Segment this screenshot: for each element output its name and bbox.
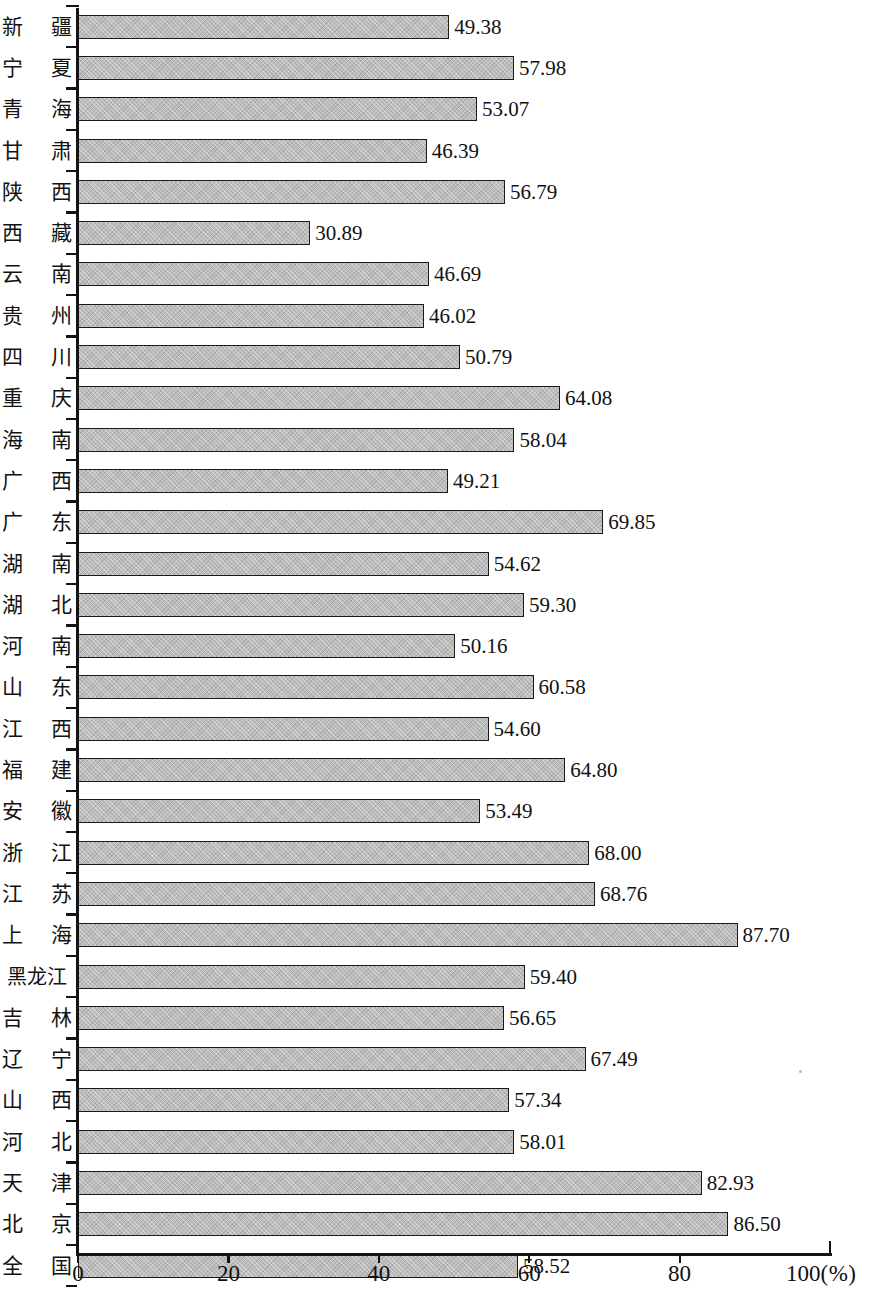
x-axis-tick-label: 80 <box>668 1262 691 1285</box>
bar <box>78 717 489 741</box>
y-axis-tick <box>66 913 77 915</box>
bar-value-label: 59.40 <box>530 966 577 987</box>
bar-row: 云 南46.69 <box>0 254 889 295</box>
y-axis-tick <box>66 955 77 957</box>
category-label: 陕 西 <box>2 181 72 202</box>
bar-row: 西 藏30.89 <box>0 213 889 254</box>
y-axis-tick <box>66 748 77 750</box>
y-axis-tick <box>66 335 77 337</box>
bar-container: 59.30 <box>78 593 524 617</box>
bar <box>78 386 560 410</box>
bar-row: 河 北58.01 <box>0 1121 889 1162</box>
bar-row: 广 西49.21 <box>0 460 889 501</box>
bar-value-label: 50.79 <box>465 347 512 368</box>
bar-value-label: 56.79 <box>510 181 557 202</box>
bar-row: 山 东60.58 <box>0 667 889 708</box>
bar-container: 58.52 <box>78 1254 518 1278</box>
category-label: 甘 肃 <box>2 140 72 161</box>
bar-container: 30.89 <box>78 221 310 245</box>
bar-container: 56.79 <box>78 180 505 204</box>
bar-row: 宁 夏57.98 <box>0 47 889 88</box>
bar-value-label: 46.69 <box>434 264 481 285</box>
y-axis-tick <box>66 996 77 998</box>
y-axis-tick <box>66 170 77 172</box>
category-label: 海 南 <box>2 429 72 450</box>
y-axis-tick <box>66 624 77 626</box>
bar-value-label: 46.02 <box>429 305 476 326</box>
category-label: 青 海 <box>2 99 72 120</box>
bar <box>78 139 427 163</box>
y-axis-tick <box>66 253 77 255</box>
bar-row: 北 京86.50 <box>0 1204 889 1245</box>
category-label: 山 东 <box>2 677 72 698</box>
scan-artifact-speck <box>799 1070 802 1073</box>
x-axis-tick-label: 0 <box>72 1262 84 1285</box>
category-label: 天 津 <box>2 1173 72 1194</box>
bar-row: 湖 南54.62 <box>0 543 889 584</box>
bar-value-label: 56.65 <box>509 1007 556 1028</box>
bar-container: 46.69 <box>78 262 429 286</box>
bar <box>78 675 534 699</box>
category-label: 浙 江 <box>2 842 72 863</box>
y-axis-tick <box>66 377 77 379</box>
y-axis-tick <box>66 294 77 296</box>
category-label: 四 川 <box>2 347 72 368</box>
bar-row: 贵 州46.02 <box>0 295 889 336</box>
bar-value-label: 50.16 <box>460 636 507 657</box>
bar-value-label: 49.38 <box>454 16 501 37</box>
bar-row: 四 川50.79 <box>0 336 889 377</box>
category-label: 安 徽 <box>2 801 72 822</box>
bar-row: 河 南50.16 <box>0 626 889 667</box>
bar-container: 60.58 <box>78 675 534 699</box>
bar-value-label: 64.08 <box>565 388 612 409</box>
bar-container: 68.76 <box>78 882 595 906</box>
category-label: 湖 南 <box>2 553 72 574</box>
category-label: 吉 林 <box>2 1007 72 1028</box>
bar <box>78 56 514 80</box>
bar <box>78 262 429 286</box>
bar-row: 辽 宁67.49 <box>0 1039 889 1080</box>
bar-row: 江 苏68.76 <box>0 873 889 914</box>
bar-value-label: 86.50 <box>733 1214 780 1235</box>
bar <box>78 552 489 576</box>
bar-container: 54.62 <box>78 552 489 576</box>
bar-row: 新 疆49.38 <box>0 6 889 47</box>
bar-container: 54.60 <box>78 717 489 741</box>
bar-value-label: 49.21 <box>453 470 500 491</box>
bar <box>78 882 595 906</box>
bar-value-label: 87.70 <box>743 925 790 946</box>
y-axis-tick <box>66 790 77 792</box>
bar-row: 上 海87.70 <box>0 915 889 956</box>
bar-chart: 新 疆49.38宁 夏57.98青 海53.07甘 肃46.39陕 西56.79… <box>0 0 889 1292</box>
bar-row: 甘 肃46.39 <box>0 130 889 171</box>
x-axis-line <box>76 1253 832 1256</box>
bar-container: 49.21 <box>78 469 448 493</box>
bar-row: 黑龙江59.40 <box>0 956 889 997</box>
category-label: 北 京 <box>2 1214 72 1235</box>
bar-value-label: 30.89 <box>315 223 362 244</box>
bar-container: 68.00 <box>78 841 589 865</box>
category-label: 山 西 <box>2 1090 72 1111</box>
category-label: 上 海 <box>2 925 72 946</box>
bar-value-label: 58.04 <box>519 429 566 450</box>
bar-value-label: 67.49 <box>591 1049 638 1070</box>
y-axis-tick <box>66 211 77 213</box>
bar-row: 安 徽53.49 <box>0 791 889 832</box>
bar-value-label: 58.01 <box>519 1131 566 1152</box>
bar-row: 浙 江68.00 <box>0 832 889 873</box>
category-label: 宁 夏 <box>2 57 72 78</box>
bar-container: 69.85 <box>78 510 603 534</box>
bar <box>78 1212 728 1236</box>
bar-container: 53.49 <box>78 799 480 823</box>
bar-row: 福 建64.80 <box>0 749 889 790</box>
y-axis-tick <box>66 129 77 131</box>
y-axis-tick <box>66 418 77 420</box>
x-axis-tick-label: 40 <box>367 1262 390 1285</box>
bar <box>78 97 477 121</box>
bar-container: 59.40 <box>78 965 525 989</box>
bar <box>78 1254 518 1278</box>
bar-value-label: 82.93 <box>707 1173 754 1194</box>
bar-row: 江 西54.60 <box>0 708 889 749</box>
category-label: 重 庆 <box>2 388 72 409</box>
bar <box>78 1130 514 1154</box>
